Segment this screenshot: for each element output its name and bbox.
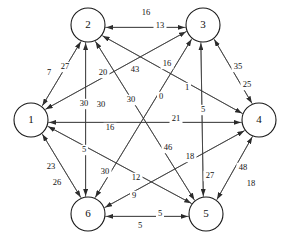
edge-weight: 21	[172, 113, 181, 123]
edge-weight: 13	[156, 20, 165, 30]
edge-label-3-to-2: 16	[140, 7, 153, 18]
edge-weight: 35	[234, 61, 243, 71]
edge-weight: 16	[142, 7, 151, 17]
nodes-layer: 123456	[14, 8, 276, 231]
edge-weight: 5	[82, 144, 86, 154]
edge-weight: 27	[61, 61, 70, 71]
edge-weight: 5	[138, 220, 142, 230]
edge-label-2-to-5: 46	[162, 142, 175, 153]
edge-weight: 43	[131, 64, 140, 74]
node-label: 4	[256, 113, 262, 125]
edge-weight: 5	[201, 104, 205, 114]
node-2[interactable]: 2	[71, 8, 105, 42]
edge-label-5-to-2: 20	[97, 67, 110, 78]
edge-weight: 0	[159, 91, 163, 101]
edge-label-4-to-5: 48	[237, 162, 250, 173]
node-6[interactable]: 6	[71, 197, 105, 231]
edge-label-4-to-1: 21	[170, 113, 183, 124]
edge-label-1-to-3: 0	[157, 91, 165, 102]
edge-label-4-to-3: 25	[241, 79, 254, 90]
edge-label-3-to-5: 27	[204, 170, 217, 181]
edge-weight: 25	[243, 79, 252, 89]
node-label: 6	[85, 207, 91, 219]
edge-label-3-to-4: 35	[232, 61, 245, 72]
edge-weight: 5	[158, 208, 162, 218]
edge-weight: 48	[239, 162, 248, 172]
edge-label-4-to-2: 16	[161, 58, 174, 69]
edge-2-to-4	[102, 35, 242, 113]
edge-label-1-to-4: 16	[104, 122, 117, 133]
edge-weight: 30	[97, 99, 106, 109]
graph-canvas: 1613727352523264818552116305527433020461…	[0, 0, 290, 243]
edge-weight: 12	[132, 172, 141, 182]
node-label: 2	[85, 18, 91, 30]
edge-label-1-to-6: 23	[45, 161, 58, 172]
node-5[interactable]: 5	[189, 197, 223, 231]
edges-layer	[42, 27, 253, 216]
edge-weight: 30	[101, 166, 110, 176]
edge-weight: 9	[132, 190, 136, 200]
edge-label-6-to-4: 9	[130, 190, 138, 201]
edge-label-2-to-6: 5	[80, 144, 88, 155]
edge-labels-layer: 1613727352523264818552116305527433020461…	[45, 7, 258, 231]
node-label: 5	[203, 207, 209, 219]
graph-diagram: 1613727352523264818552116305527433020461…	[0, 0, 290, 243]
edge-6-to-4	[104, 131, 244, 208]
edge-label-6-to-3: 43	[129, 64, 142, 75]
edge-weight: 18	[186, 151, 195, 161]
edge-label-6-to-2: 30	[78, 98, 91, 109]
edge-3-to-5	[201, 42, 203, 196]
edge-label-2-to-4: 1	[183, 82, 191, 93]
edge-weight: 26	[53, 177, 62, 187]
edge-label-6-to-5: 5	[136, 220, 144, 231]
edge-label-6-to-1: 26	[51, 177, 64, 188]
edge-weight: 30	[80, 98, 89, 108]
edge-weight: 18	[247, 178, 256, 188]
node-label: 1	[28, 113, 34, 125]
node-label: 3	[200, 18, 206, 30]
edge-label-5-to-3: 5	[199, 104, 207, 115]
edge-label-2-to-3: 13	[154, 20, 167, 31]
edge-label-4-to-6: 18	[184, 151, 197, 162]
edge-label-1-to-5: 30	[99, 166, 112, 177]
edge-label-2-to-1: 7	[45, 67, 53, 78]
edge-label-5-to-4: 18	[245, 178, 258, 189]
edge-weight: 16	[106, 122, 115, 132]
edge-weight: 7	[47, 67, 51, 77]
edge-label-5-to-6: 5	[156, 208, 164, 219]
edge-weight: 20	[99, 67, 108, 77]
node-4[interactable]: 4	[242, 103, 276, 137]
edge-label-3-to-6: 30	[125, 94, 138, 105]
edge-weight: 46	[164, 142, 173, 152]
edge-weight: 27	[206, 170, 215, 180]
edge-weight: 23	[47, 161, 56, 171]
edge-weight: 1	[185, 82, 189, 92]
node-3[interactable]: 3	[186, 8, 220, 42]
edge-label-3-to-1: 30	[95, 99, 108, 110]
edge-weight: 30	[127, 94, 136, 104]
edge-label-5-to-1: 12	[130, 172, 143, 183]
node-1[interactable]: 1	[14, 103, 48, 137]
edge-label-1-to-2: 27	[59, 61, 72, 72]
edge-weight: 16	[163, 58, 172, 68]
edge-5-to-1	[48, 127, 192, 204]
